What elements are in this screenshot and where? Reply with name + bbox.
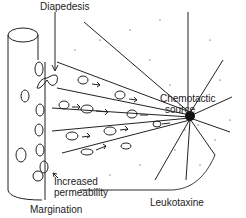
- label-increased: Increased: [54, 177, 98, 187]
- label-leukotaxine: Leukotaxine: [150, 198, 204, 208]
- migrating-leukocytes: [59, 76, 170, 155]
- blood-vessel: [8, 28, 45, 200]
- chemotaxis-diagram: Diapedesis Chemotactic source Increased …: [0, 0, 246, 218]
- label-margination: Margination: [30, 205, 82, 215]
- diagram-drawing: [0, 0, 246, 218]
- label-diapedesis: Diapedesis: [40, 2, 89, 12]
- label-chemotactic-line1: Chemotactic: [160, 94, 216, 104]
- vessel-cells: [16, 62, 48, 181]
- label-chemotactic-line2: source: [165, 105, 195, 115]
- label-permeability: permeability: [54, 188, 108, 198]
